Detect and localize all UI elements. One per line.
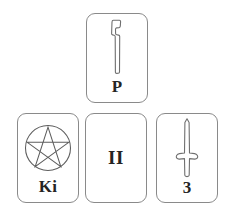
card-spread-canvas: P Ki II 3	[0, 0, 233, 215]
card-sword-label: 3	[183, 179, 192, 203]
card-wand-art	[87, 14, 147, 78]
card-pentacle-art	[18, 114, 78, 178]
card-sword-art	[157, 114, 217, 179]
card-pentacle[interactable]: Ki	[17, 113, 79, 203]
card-wand[interactable]: P	[86, 13, 148, 103]
card-two[interactable]: II	[85, 113, 147, 203]
card-two-label: II	[86, 147, 146, 169]
wand-icon	[104, 18, 130, 78]
card-pentacle-label: Ki	[39, 178, 57, 202]
card-sword[interactable]: 3	[156, 113, 218, 203]
sword-icon	[172, 117, 202, 179]
pentacle-icon	[23, 123, 73, 173]
card-wand-label: P	[112, 78, 123, 102]
